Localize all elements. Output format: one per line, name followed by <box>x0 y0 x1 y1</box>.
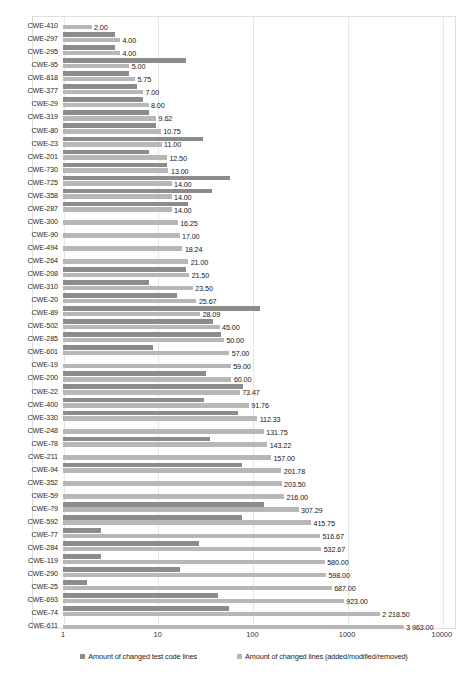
category-label: CWE-297 <box>0 34 58 43</box>
bar-test-code-lines <box>63 398 204 403</box>
bar-changed-lines <box>63 142 162 147</box>
bar-test-code-lines <box>63 45 115 50</box>
category-label: CWE-208 <box>0 269 58 278</box>
bar-changed-lines <box>63 547 321 552</box>
bar-test-code-lines <box>63 332 221 337</box>
category-label: CWE-248 <box>0 425 58 434</box>
bar-changed-lines <box>63 468 281 473</box>
bar-changed-lines <box>63 312 200 317</box>
bar-test-code-lines <box>63 319 213 324</box>
bar-changed-lines <box>63 181 172 186</box>
bar-changed-lines <box>63 207 172 212</box>
bar-rows: CWE-4102.00CWE-2974.00CWE-2954.00CWE-955… <box>0 0 474 685</box>
category-label: CWE-74 <box>0 608 58 617</box>
chart-legend: Amount of changed test code linesAmount … <box>32 648 456 664</box>
bar-changed-lines <box>63 38 120 43</box>
bar-test-code-lines <box>63 463 242 468</box>
bar-changed-lines <box>63 364 231 369</box>
bar-test-code-lines <box>63 541 199 546</box>
bar-test-code-lines <box>63 411 238 416</box>
category-label: CWE-592 <box>0 517 58 526</box>
category-label: CWE-611 <box>0 621 58 630</box>
legend-label: Amount of changed lines (added/modified/… <box>245 652 408 661</box>
bar-changed-lines <box>63 403 249 408</box>
legend-swatch-icon <box>237 654 242 659</box>
bar-changed-lines <box>63 612 380 617</box>
bar-changed-lines <box>63 390 240 395</box>
bar-changed-lines <box>63 481 282 486</box>
bar-changed-lines <box>63 64 129 69</box>
legend-item[interactable]: Amount of changed test code lines <box>80 652 197 661</box>
bar-changed-lines <box>63 599 344 604</box>
category-label: CWE-90 <box>0 229 58 238</box>
legend-swatch-icon <box>80 654 85 659</box>
category-label: CWE-25 <box>0 582 58 591</box>
bar-changed-lines <box>63 168 168 173</box>
category-label: CWE-730 <box>0 164 58 173</box>
bar-changed-lines <box>63 77 135 82</box>
bar-test-code-lines <box>63 97 143 102</box>
category-label: CWE-494 <box>0 242 58 251</box>
bar-test-code-lines <box>63 163 167 168</box>
category-label: CWE-693 <box>0 595 58 604</box>
category-label: CWE-201 <box>0 151 58 160</box>
category-label: CWE-95 <box>0 60 58 69</box>
category-label: CWE-20 <box>0 295 58 304</box>
category-label: CWE-377 <box>0 86 58 95</box>
category-label: CWE-400 <box>0 399 58 408</box>
category-label: CWE-59 <box>0 490 58 499</box>
category-label: CWE-211 <box>0 451 58 460</box>
log-bar-chart: CWE-4102.00CWE-2974.00CWE-2954.00CWE-955… <box>0 0 474 685</box>
bar-test-code-lines <box>63 606 229 611</box>
bar-changed-lines <box>63 455 271 460</box>
category-label: CWE-23 <box>0 138 58 147</box>
category-label: CWE-502 <box>0 321 58 330</box>
legend-item[interactable]: Amount of changed lines (added/modified/… <box>237 652 408 661</box>
bar-changed-lines <box>63 259 188 264</box>
bar-test-code-lines <box>63 84 137 89</box>
bar-changed-lines <box>63 573 326 578</box>
bar-changed-lines <box>63 494 284 499</box>
bar-changed-lines <box>63 377 231 382</box>
bar-changed-lines <box>63 233 180 238</box>
category-label: CWE-287 <box>0 203 58 212</box>
bar-changed-lines <box>63 129 161 134</box>
bar-test-code-lines <box>63 515 242 520</box>
category-label: CWE-330 <box>0 412 58 421</box>
bar-test-code-lines <box>63 580 87 585</box>
category-label: CWE-29 <box>0 99 58 108</box>
bar-changed-lines <box>63 220 178 225</box>
bar-changed-lines <box>63 507 299 512</box>
bar-test-code-lines <box>63 71 129 76</box>
category-label: CWE-601 <box>0 347 58 356</box>
category-label: CWE-284 <box>0 543 58 552</box>
category-label: CWE-22 <box>0 386 58 395</box>
bar-test-code-lines <box>63 306 260 311</box>
bar-changed-lines <box>63 116 156 121</box>
bar-test-code-lines <box>63 437 210 442</box>
category-label: CWE-300 <box>0 216 58 225</box>
category-label: CWE-319 <box>0 112 58 121</box>
bar-changed-lines <box>63 338 224 343</box>
bar-test-code-lines <box>63 267 186 272</box>
bar-changed-lines <box>63 51 120 56</box>
category-label: CWE-310 <box>0 282 58 291</box>
bar-changed-lines <box>63 194 172 199</box>
bar-test-code-lines <box>63 280 149 285</box>
bar-changed-lines <box>63 351 229 356</box>
bar-test-code-lines <box>63 137 203 142</box>
bar-test-code-lines <box>63 371 206 376</box>
bar-changed-lines <box>63 273 189 278</box>
bar-changed-lines <box>63 520 311 525</box>
category-label: CWE-19 <box>0 360 58 369</box>
bar-changed-lines <box>63 586 332 591</box>
category-label: CWE-77 <box>0 530 58 539</box>
bar-test-code-lines <box>63 593 218 598</box>
bar-test-code-lines <box>63 123 156 128</box>
category-label: CWE-78 <box>0 438 58 447</box>
bar-changed-lines <box>63 416 257 421</box>
legend-label: Amount of changed test code lines <box>88 652 197 661</box>
bar-changed-lines <box>63 25 92 30</box>
x-tick-label: 10000 <box>432 630 453 639</box>
bar-changed-lines <box>63 155 167 160</box>
